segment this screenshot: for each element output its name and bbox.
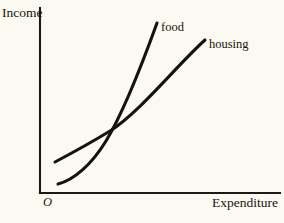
curve-label-housing: housing (209, 38, 249, 51)
origin-label: O (43, 196, 52, 209)
engel-curve-figure: Income Expenditure O food housing (0, 0, 284, 223)
curve-housing (55, 40, 205, 162)
curve-label-food: food (161, 21, 184, 34)
axes-group (40, 8, 280, 193)
chart-canvas (0, 0, 284, 223)
y-axis-label: Income (2, 6, 42, 20)
x-axis-label: Expenditure (212, 196, 278, 210)
curves-group (55, 23, 205, 184)
